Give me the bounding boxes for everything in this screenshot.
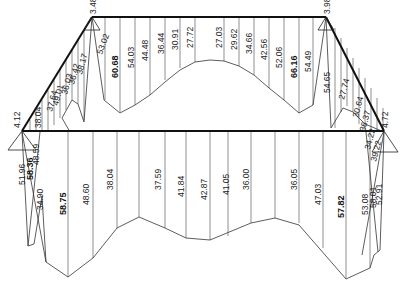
top-label: 54.49 <box>303 50 313 72</box>
leg-label: 52.91 <box>374 183 384 205</box>
bottom-label: 48.60 <box>81 183 91 205</box>
left-leg-labels: 51.96 58.36 48.59 34.90 <box>17 143 45 210</box>
leg-label: 34.90 <box>35 188 45 210</box>
frame-diagram: 3.48 3.98 4.12 4.72 53.02 60.68 54.03 44… <box>0 0 419 290</box>
bottom-label: 42.87 <box>199 178 209 200</box>
leg-label: 48.59 <box>31 143 41 165</box>
bottom-diagram-outline <box>22 132 384 279</box>
top-label: 52.06 <box>274 46 284 68</box>
top-label: 34.66 <box>244 32 254 54</box>
node-label-right: 4.72 <box>380 111 390 128</box>
top-beam-labels: 53.02 60.68 54.03 44.48 36.44 30.91 27.7… <box>94 26 313 78</box>
top-label: 54.03 <box>126 46 136 68</box>
bottom-label: 41.05 <box>221 173 231 195</box>
bottom-label: 58.75 <box>58 192 68 215</box>
top-label: 30.91 <box>170 28 180 50</box>
slope-label: 27.74 <box>336 77 351 100</box>
left-slope-labels: 37.64 38.04 49.01 36.03 36.42 38.17 <box>33 52 90 128</box>
bottom-label: 41.84 <box>176 175 186 197</box>
bottom-label: 57.82 <box>336 195 346 218</box>
slope-label: 54.65 <box>322 71 332 93</box>
bottom-label: 36.00 <box>241 168 251 190</box>
right-leg-labels: 58.01 52.91 <box>368 183 384 208</box>
diagram-canvas: 3.48 3.98 4.12 4.72 53.02 60.68 54.03 44… <box>0 0 419 290</box>
bottom-label: 37.59 <box>153 168 163 190</box>
bottom-hatching <box>68 132 370 278</box>
bottom-label: 36.05 <box>289 168 299 190</box>
bottom-label: 47.03 <box>313 183 323 205</box>
top-label: 27.03 <box>214 26 224 48</box>
top-label: 53.02 <box>94 32 111 56</box>
top-label: 27.72 <box>185 26 195 48</box>
node-label-top-right: 3.98 <box>322 0 332 14</box>
node-label-left: 4.12 <box>12 111 22 128</box>
node-label-top-left: 3.48 <box>88 0 98 14</box>
top-label: 60.68 <box>110 55 120 78</box>
bottom-label: 38.04 <box>105 168 115 190</box>
top-label: 29.62 <box>229 28 239 50</box>
slope-label: 38.04 <box>33 106 43 128</box>
top-label: 44.48 <box>140 39 150 61</box>
top-label: 66.16 <box>289 55 299 78</box>
top-label: 42.56 <box>259 38 269 60</box>
top-label: 36.44 <box>156 32 166 54</box>
slope-label: 38.17 <box>74 52 89 75</box>
